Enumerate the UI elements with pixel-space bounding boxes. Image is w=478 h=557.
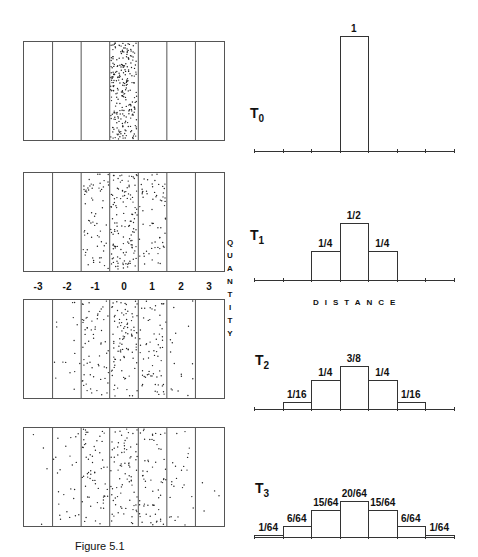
bar-value-label: 1/4	[370, 367, 394, 378]
time-label: T1	[250, 227, 264, 246]
time-label: T0	[250, 105, 264, 124]
bar-value-label: 3/8	[342, 353, 366, 364]
bar-value-label: 1/4	[313, 238, 337, 249]
particle-dots-t3	[24, 428, 224, 526]
bar-value-label: 15/64	[370, 497, 394, 508]
bar-value-label: 1/16	[285, 389, 309, 400]
diffusion-strip-t1	[23, 172, 225, 272]
time-label: T2	[255, 352, 269, 371]
figure-caption: Figure 5.1	[75, 540, 125, 552]
bar-value-label: 1/4	[370, 238, 394, 249]
histogram-bar	[340, 36, 370, 151]
quantity-axis-label: QUANTITY	[225, 236, 235, 340]
histogram-bar	[368, 380, 398, 409]
histogram-bar	[254, 535, 284, 537]
histogram-bar	[397, 526, 427, 537]
bar-value-label: 20/64	[342, 488, 366, 499]
histogram-bar	[340, 223, 370, 281]
histogram-bar	[340, 366, 370, 409]
time-label: T3	[255, 480, 269, 499]
bar-value-label: 1	[342, 23, 366, 34]
histogram-bar	[283, 526, 313, 537]
particle-dots-t1	[24, 173, 224, 271]
bar-value-label: 1/16	[399, 389, 423, 400]
diffusion-strip-t0	[23, 41, 225, 141]
bar-value-label: 15/64	[313, 497, 337, 508]
diffusion-strip-t2	[23, 299, 225, 399]
histogram-bar	[340, 501, 370, 537]
histogram-bar	[283, 402, 313, 409]
bar-value-label: 1/64	[256, 522, 280, 533]
histogram-bar	[368, 251, 398, 280]
particle-dots-t2	[24, 300, 224, 398]
bar-value-label: 1/4	[313, 367, 337, 378]
diffusion-strip-t3	[23, 427, 225, 527]
histogram-bar	[397, 402, 427, 409]
bar-value-label: 1/2	[342, 210, 366, 221]
histogram-bar	[311, 380, 341, 409]
distance-axis-label: DISTANCE	[313, 298, 401, 307]
histogram-bar	[311, 251, 341, 280]
histogram-bar	[368, 510, 398, 537]
histogram-bar	[425, 535, 455, 537]
bar-value-label: 6/64	[285, 513, 309, 524]
histogram-bar	[311, 510, 341, 537]
bar-value-label: 6/64	[399, 513, 423, 524]
bar-value-label: 1/64	[427, 522, 451, 533]
particle-dots-t0	[24, 42, 224, 140]
